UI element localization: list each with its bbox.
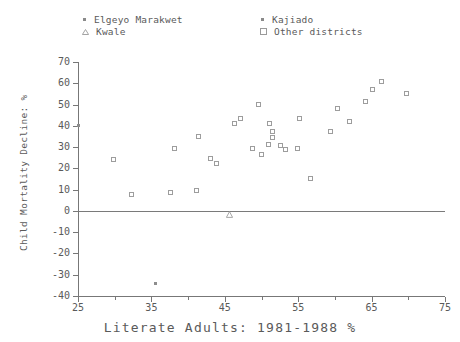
x-axis-tick (225, 297, 226, 302)
legend-item-kajiado: Kajiado (260, 14, 313, 25)
data-point-other-district (256, 102, 261, 107)
data-point-other-district (168, 190, 173, 195)
data-point-other-district (194, 188, 199, 193)
data-point-other-district (297, 116, 302, 121)
x-axis-minor-tick (188, 297, 189, 300)
x-tick-label: 75 (430, 303, 460, 313)
triangle-marker-icon (82, 29, 89, 35)
y-axis-tick (73, 105, 78, 106)
y-tick-label: -20 (36, 248, 70, 258)
data-point-elgeyo-marakwet (77, 124, 80, 127)
y-tick-label: 20 (36, 163, 70, 173)
y-tick-label: -10 (36, 227, 70, 237)
data-point-other-district (259, 152, 264, 157)
data-point-other-district (283, 147, 288, 152)
dot-marker-icon (83, 18, 86, 21)
x-axis-tick (78, 297, 79, 302)
data-point-other-district (308, 176, 313, 181)
data-point-kwale (226, 203, 233, 222)
data-point-other-district (196, 134, 201, 139)
y-tick-label: -40 (36, 291, 70, 301)
data-point-other-district (363, 99, 368, 104)
legend-item-kwale: Kwale (82, 26, 126, 37)
y-tick-label: 50 (36, 100, 70, 110)
x-tick-label: 55 (283, 303, 313, 313)
legend-label: Other districts (274, 26, 363, 37)
x-axis-title: Literate Adults: 1981-1988 % (0, 320, 460, 335)
data-point-other-district (404, 91, 409, 96)
y-axis-tick (73, 168, 78, 169)
x-axis-minor-tick (408, 297, 409, 300)
data-point-other-district (379, 79, 384, 84)
x-axis-tick (445, 297, 446, 302)
y-tick-label: 10 (36, 185, 70, 195)
y-axis-tick (73, 275, 78, 276)
y-tick-label: 0 (36, 206, 70, 216)
data-point-other-district (328, 129, 333, 134)
dot-marker-icon (261, 18, 264, 21)
data-point-other-district (335, 106, 340, 111)
x-tick-label: 45 (210, 303, 240, 313)
legend-item-other-districts: Other districts (260, 26, 363, 37)
square-marker-icon (260, 28, 267, 35)
x-axis-tick (372, 297, 373, 302)
y-axis-tick (73, 62, 78, 63)
x-tick-label: 25 (63, 303, 93, 313)
y-axis-line (78, 62, 79, 296)
x-axis-tick (151, 297, 152, 302)
y-axis-tick (73, 253, 78, 254)
data-point-other-district (208, 156, 213, 161)
x-axis-minor-tick (262, 297, 263, 300)
data-point-other-district (172, 146, 177, 151)
y-axis-tick (73, 83, 78, 84)
x-tick-label: 35 (136, 303, 166, 313)
x-axis-minor-tick (335, 297, 336, 300)
y-tick-label: 70 (36, 57, 70, 67)
y-tick-label: -30 (36, 270, 70, 280)
data-point-other-district (370, 87, 375, 92)
chart-legend: Elgeyo Marakwet Kwale Kajiado Other dist… (0, 0, 460, 40)
data-point-other-district (266, 142, 271, 147)
data-point-other-district (347, 119, 352, 124)
reference-line (78, 211, 445, 212)
data-point-other-district (295, 146, 300, 151)
x-axis-minor-tick (115, 297, 116, 300)
data-point-other-district (214, 161, 219, 166)
y-axis-tick (73, 232, 78, 233)
legend-label: Kajiado (272, 14, 313, 25)
y-tick-label: 30 (36, 142, 70, 152)
data-point-other-district (270, 135, 275, 140)
data-point-other-district (232, 121, 237, 126)
data-point-kajiado (154, 282, 157, 285)
data-point-other-district (270, 129, 275, 134)
y-axis-title: Child Mortality Decline: % (18, 94, 29, 251)
scatter-chart: Elgeyo Marakwet Kwale Kajiado Other dist… (0, 0, 460, 342)
x-axis-tick (298, 297, 299, 302)
legend-label: Elgeyo Marakwet (94, 14, 183, 25)
data-point-other-district (250, 146, 255, 151)
data-point-other-district (267, 121, 272, 126)
data-point-other-district (129, 192, 134, 197)
y-axis-tick (73, 190, 78, 191)
legend-item-elgeyo-marakwet: Elgeyo Marakwet (82, 14, 183, 25)
legend-label: Kwale (96, 26, 126, 37)
y-tick-label: 40 (36, 121, 70, 131)
data-point-other-district (278, 143, 283, 148)
data-point-other-district (238, 116, 243, 121)
data-point-other-district (111, 157, 116, 162)
y-tick-label: 60 (36, 78, 70, 88)
x-tick-label: 65 (357, 303, 387, 313)
y-axis-tick (73, 147, 78, 148)
